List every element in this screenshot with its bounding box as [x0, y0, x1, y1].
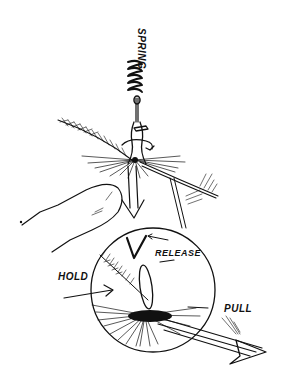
- pull-arrow: [158, 316, 266, 364]
- label-release: RELEASE: [155, 249, 201, 258]
- hook-knot: [132, 157, 138, 163]
- label-pull: PULL: [224, 304, 252, 314]
- hackle-feather-left: [58, 118, 132, 160]
- hold-arrow: [64, 285, 113, 298]
- finger: [20, 184, 122, 252]
- feather-stem-right: [140, 162, 218, 228]
- release-underline: [160, 260, 174, 262]
- hook-shank: [122, 122, 154, 164]
- label-hold: HOLD: [58, 272, 88, 282]
- spring-coil: [128, 61, 142, 122]
- label-spring: SPRING: [136, 28, 146, 69]
- down-arrow: [122, 166, 144, 218]
